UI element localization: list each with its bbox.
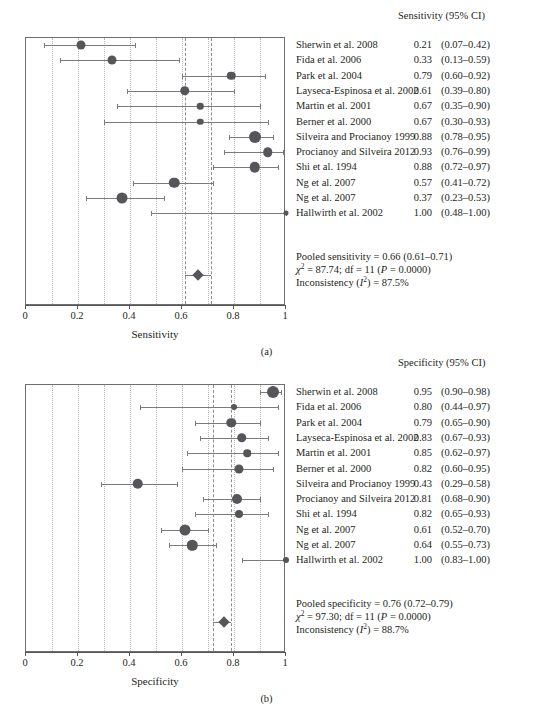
point-estimate-value: 0.82: [398, 462, 432, 473]
pooled-diamond-marker: [218, 616, 229, 627]
point-estimate-value: 0.79: [398, 416, 432, 427]
confidence-interval-value: (0.76–0.99): [441, 146, 490, 157]
study-label: Fida et al. 2006: [296, 54, 361, 65]
ci-lower-cap: [151, 211, 152, 216]
axis-tick: [181, 652, 182, 656]
gridline: [208, 385, 209, 651]
study-label: Ng et al. 2007: [296, 523, 356, 534]
confidence-interval-line: [117, 106, 260, 107]
ci-lower-cap: [195, 512, 196, 517]
confidence-interval-value: (0.60–0.92): [441, 69, 490, 80]
study-label: Martin et al. 2001: [296, 100, 371, 111]
axis-tick-label: 1: [282, 310, 287, 321]
confidence-interval-value: (0.62–0.97): [441, 447, 490, 458]
ci-lower-cap: [182, 467, 183, 472]
study-point-marker: [267, 386, 279, 398]
confidence-interval-line: [60, 60, 180, 61]
ci-lower-cap: [200, 436, 201, 441]
study-point-marker: [117, 193, 128, 204]
pooled-reference-line: [211, 38, 212, 304]
inconsistency-suffix: ) = 87.5%: [367, 277, 409, 288]
axis-tick-label: 0.6: [174, 657, 187, 668]
ci-lower-cap: [101, 482, 102, 487]
ci-lower-cap: [203, 497, 204, 502]
ci-lower-cap: [260, 390, 261, 395]
x-axis-title-specificity: Specificity: [131, 675, 179, 687]
confidence-interval-line: [182, 76, 265, 77]
x-axis-title-sensitivity: Sensitivity: [131, 328, 178, 340]
point-estimate-value: 0.80: [398, 401, 432, 412]
axis-tick: [77, 652, 78, 656]
axis-tick: [77, 305, 78, 309]
confidence-interval-value: (0.39–0.80): [441, 84, 490, 95]
confidence-interval-line: [242, 560, 286, 561]
ci-lower-cap: [104, 120, 105, 125]
inconsistency-prefix: Inconsistency (: [296, 624, 360, 635]
ci-lower-cap: [86, 196, 87, 201]
confidence-interval-value: (0.65–0.90): [441, 416, 490, 427]
point-estimate-value: 0.33: [398, 54, 432, 65]
ci-lower-cap: [169, 543, 170, 548]
confidence-interval-value: (0.68–0.90): [441, 493, 490, 504]
confidence-interval-value: (0.48–1.00): [441, 207, 490, 218]
study-label: Ng et al. 2007: [296, 539, 356, 550]
axis-tick-label: 0.8: [226, 657, 239, 668]
plot-area-sensitivity: [25, 37, 285, 305]
axis-tick-label: 0.4: [122, 310, 135, 321]
confidence-interval-line: [182, 469, 273, 470]
summary-specificity: Pooled specificity = 0.76 (0.72–0.79) χ2…: [296, 597, 453, 637]
ci-lower-cap: [213, 165, 214, 170]
gridline: [52, 385, 53, 651]
axis-tick: [25, 652, 26, 656]
gridline: [52, 38, 53, 304]
confidence-interval-value: (0.30–0.93): [441, 115, 490, 126]
ci-lower-cap: [224, 150, 225, 155]
study-point-marker: [243, 449, 251, 457]
x-axis-specificity: [25, 652, 285, 653]
x-axis-sensitivity: [25, 305, 285, 306]
point-estimate-value: 0.61: [398, 523, 432, 534]
ci-upper-cap: [135, 43, 136, 48]
confidence-interval-line: [44, 45, 135, 46]
study-point-marker: [227, 418, 237, 428]
study-point-marker: [76, 41, 85, 50]
ci-upper-cap: [268, 120, 269, 125]
study-label: Shi et al. 1994: [296, 161, 357, 172]
axis-tick: [285, 652, 286, 656]
chi-value-specificity: = 97.30; df = 11 (: [304, 611, 381, 622]
ci-upper-cap: [260, 421, 261, 426]
p-value-specificity: = 0.0000): [387, 611, 431, 622]
inconsistency-specificity: Inconsistency (I2) = 88.7%: [296, 623, 453, 636]
confidence-interval-value: (0.41–0.72): [441, 176, 490, 187]
confidence-interval-value: (0.07–0.42): [441, 39, 490, 50]
point-estimate-value: 0.37: [398, 192, 432, 203]
ci-lower-cap: [229, 135, 230, 140]
point-estimate-value: 0.88: [398, 130, 432, 141]
ci-upper-cap: [177, 482, 178, 487]
study-point-marker: [232, 494, 242, 504]
axis-tick-label: 1: [282, 657, 287, 668]
confidence-interval-line: [140, 407, 278, 408]
ci-upper-cap: [216, 543, 217, 548]
confidence-interval-line: [104, 122, 268, 123]
pooled-specificity-text: Pooled specificity = 0.76 (0.72–0.79): [296, 597, 453, 610]
ci-lower-cap: [44, 43, 45, 48]
point-estimate-value: 0.95: [398, 386, 432, 397]
ci-upper-cap: [268, 436, 269, 441]
ci-upper-cap: [278, 405, 279, 410]
study-point-marker: [180, 86, 190, 96]
point-estimate-value: 0.81: [398, 493, 432, 504]
axis-tick-label: 0: [22, 310, 27, 321]
ci-upper-cap: [265, 74, 266, 79]
ci-lower-cap: [187, 451, 188, 456]
point-estimate-value: 0.85: [398, 447, 432, 458]
axis-tick-label: 0.6: [174, 310, 187, 321]
ci-upper-cap: [260, 497, 261, 502]
confidence-interval-value: (0.65–0.93): [441, 508, 490, 519]
panel-specificity: Specificity (95% CI) 00.20.40.60.81 Spec…: [0, 347, 533, 697]
gridline: [156, 385, 157, 651]
header-specificity: Specificity (95% CI): [398, 357, 485, 368]
gridline: [208, 38, 209, 304]
axis-tick: [181, 305, 182, 309]
axis-tick: [285, 305, 286, 309]
